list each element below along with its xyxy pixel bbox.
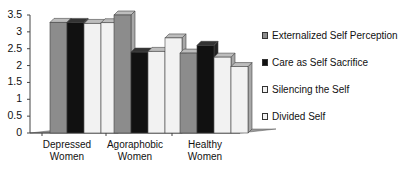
- legend-item: Divided Self: [262, 111, 398, 121]
- category-label: AgoraphobicWomen: [95, 139, 175, 163]
- y-tick-label: 2.5: [2, 42, 22, 54]
- bar: [197, 45, 214, 133]
- legend-swatch: [262, 32, 268, 39]
- legend-label: Externalized Self Perception: [272, 30, 398, 41]
- bar: [180, 53, 197, 133]
- legend-swatch: [262, 113, 268, 120]
- bar: [50, 22, 67, 133]
- legend-item: Externalized Self Perception: [262, 30, 398, 40]
- legend-swatch: [262, 59, 268, 66]
- bar: [231, 67, 248, 133]
- bar: [131, 52, 148, 133]
- legend-item: Silencing the Self: [262, 84, 398, 94]
- chart-legend: Externalized Self PerceptionCare as Self…: [262, 30, 398, 138]
- y-tick-label: 1: [2, 92, 22, 104]
- y-tick-label: 3: [2, 25, 22, 37]
- y-tick-label: 0.5: [2, 109, 22, 121]
- y-tick-label: 3.5: [2, 8, 22, 20]
- y-tick-label: 2: [2, 59, 22, 71]
- bar: [148, 51, 165, 133]
- y-tick-label: 1.5: [2, 75, 22, 87]
- legend-item: Care as Self Sacrifice: [262, 57, 398, 67]
- legend-label: Divided Self: [272, 111, 325, 122]
- legend-label: Silencing the Self: [272, 84, 349, 95]
- bar: [114, 15, 131, 133]
- bar: [214, 57, 231, 133]
- y-tick-label: 0: [2, 126, 22, 138]
- category-label: HealthyWomen: [165, 139, 245, 163]
- bar: [165, 38, 182, 133]
- bar: [67, 22, 84, 133]
- legend-swatch: [262, 86, 268, 93]
- legend-label: Care as Self Sacrifice: [272, 57, 368, 68]
- bar: [84, 23, 101, 133]
